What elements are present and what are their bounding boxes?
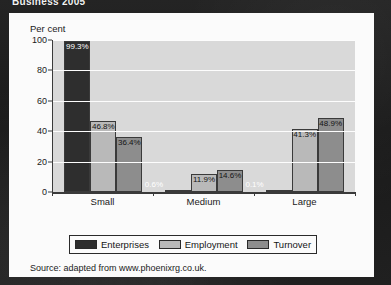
bar-value-label: 36.4% xyxy=(118,139,141,147)
y-tick-label: 60 xyxy=(37,96,47,106)
bar-group: 0.6%11.9%14.6% xyxy=(154,40,255,192)
source-note: Source: adapted from www.phoenixrg.co.uk… xyxy=(30,263,207,273)
gridline xyxy=(53,162,355,163)
bar-group: 0.1%41.3%48.9% xyxy=(254,40,355,192)
x-tick-mark xyxy=(254,192,255,196)
bar-value-label: 11.9% xyxy=(193,176,215,184)
gridline xyxy=(53,131,355,132)
bar-group: 99.3%46.8%36.4% xyxy=(53,40,154,192)
y-tick-label: 100 xyxy=(32,35,47,45)
x-tick-mark xyxy=(52,192,53,196)
bar[interactable]: 36.4% xyxy=(116,137,142,192)
x-axis-labels: SmallMediumLarge xyxy=(52,196,355,207)
y-tick-label: 0 xyxy=(42,187,47,197)
y-axis-labels: 020406080100 xyxy=(30,40,52,192)
y-tick-label: 80 xyxy=(37,65,47,75)
legend-swatch xyxy=(75,240,97,249)
bar-value-label: 48.9% xyxy=(319,120,342,128)
chart-card: Per cent 020406080100 99.3%46.8%36.4%0.6… xyxy=(9,13,374,277)
x-tick-label: Small xyxy=(52,196,153,207)
legend-swatch xyxy=(159,240,181,249)
bar-value-label: 0.1% xyxy=(245,181,263,189)
legend-label: Enterprises xyxy=(101,239,149,250)
bar[interactable]: 99.3% xyxy=(64,41,90,192)
bar[interactable]: 48.9% xyxy=(318,118,344,192)
legend-item[interactable]: Employment xyxy=(159,239,238,250)
x-tick-label: Medium xyxy=(153,196,254,207)
y-tick-label: 40 xyxy=(37,126,47,136)
plot-wrapper: 020406080100 99.3%46.8%36.4%0.6%11.9%14.… xyxy=(30,40,355,205)
bar-value-label: 14.6% xyxy=(219,172,242,180)
bar-groups: 99.3%46.8%36.4%0.6%11.9%14.6%0.1%41.3%48… xyxy=(53,40,355,192)
legend-swatch xyxy=(247,240,269,249)
x-tick-mark xyxy=(355,192,356,196)
chart-legend: EnterprisesEmploymentTurnover xyxy=(69,235,317,254)
plot-area: 99.3%46.8%36.4%0.6%11.9%14.6%0.1%41.3%48… xyxy=(52,40,355,192)
gridline xyxy=(53,70,355,71)
legend-item[interactable]: Enterprises xyxy=(75,239,149,250)
gridline xyxy=(53,101,355,102)
bar[interactable]: 14.6% xyxy=(217,170,243,192)
bar-value-label: 41.3% xyxy=(293,131,316,139)
bar-value-label: 99.3% xyxy=(66,43,89,51)
bar-value-label: 46.8% xyxy=(92,123,115,131)
legend-item[interactable]: Turnover xyxy=(247,239,311,250)
bar-value-label: 0.6% xyxy=(145,181,163,189)
x-axis-line xyxy=(52,192,355,194)
x-tick-label: Large xyxy=(254,196,355,207)
bar[interactable]: 11.9% xyxy=(191,174,217,192)
y-axis-title: Per cent xyxy=(30,23,65,34)
document-title: Business 2005 xyxy=(12,0,85,7)
y-tick-label: 20 xyxy=(37,157,47,167)
legend-label: Turnover xyxy=(273,239,311,250)
x-tick-mark xyxy=(153,192,154,196)
gridline xyxy=(53,40,355,41)
legend-label: Employment xyxy=(185,239,238,250)
